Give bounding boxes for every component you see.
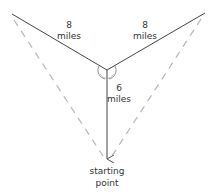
starting-point-line1: starting [82, 165, 132, 177]
center-leg-label: 6 miles [104, 83, 134, 105]
left-leg-value: 8 [54, 20, 84, 31]
right-leg-value: 8 [130, 20, 160, 31]
left-leg-label: 8 miles [54, 20, 84, 42]
center-leg-unit: miles [104, 94, 134, 105]
right-leg-unit: miles [130, 31, 160, 42]
diagram-canvas: 8 miles 8 miles 6 miles starting point [0, 0, 213, 194]
center-leg-value: 6 [104, 83, 134, 94]
starting-point-label: starting point [82, 165, 132, 189]
starting-point-line2: point [82, 177, 132, 189]
cropped-text-fragment [36, 0, 46, 2]
left-leg-unit: miles [54, 31, 84, 42]
right-leg-label: 8 miles [130, 20, 160, 42]
